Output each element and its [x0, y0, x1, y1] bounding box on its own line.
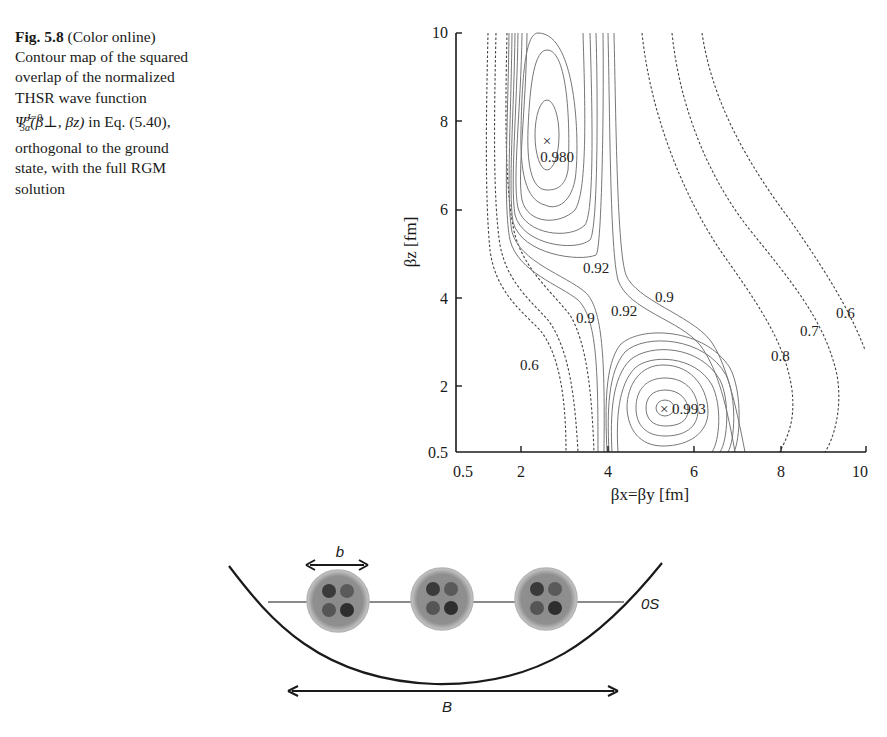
contour-label: 0.9 [655, 289, 674, 305]
y-tick-label: 8 [440, 113, 448, 130]
contour-label: 0.7 [800, 323, 819, 339]
y-tick-label: 0.5 [428, 444, 448, 461]
y-tick-labels: 10 8 6 4 2 0.5 [428, 24, 448, 461]
y-axis-title: βz [fm] [401, 217, 420, 268]
contour-label: 0.6 [520, 357, 539, 373]
B-arrow: B [288, 686, 618, 715]
y-tick-label: 4 [440, 290, 448, 307]
alpha-cluster [307, 570, 369, 632]
svg-text:×: × [543, 133, 551, 149]
contour-label: 0.9 [576, 310, 595, 326]
peak-label-upper: 0.980 [540, 149, 574, 165]
contour-label: 0.92 [583, 260, 609, 276]
y-tick-label: 10 [432, 24, 448, 41]
b-label: b [336, 543, 344, 560]
x-tick-label: 10 [852, 463, 868, 480]
peak-label-lower: 0.993 [672, 401, 706, 417]
x-tick-label: 8 [777, 463, 785, 480]
axes [456, 33, 866, 452]
b-arrow: b [306, 543, 368, 570]
y-tick-label: 6 [440, 201, 448, 218]
x-tick-label: 0.5 [453, 463, 473, 480]
dashed-contours-right [642, 33, 865, 452]
x-tick-label: 4 [604, 463, 612, 480]
x-tick-labels: 0.5 2 4 6 8 10 [453, 463, 868, 480]
contour-chart: × 0.980 × 0.993 0.92 0.92 0.9 0.9 0.6 0.… [401, 24, 868, 504]
dashed-contours-left [486, 33, 594, 452]
contour-label: 0.8 [771, 348, 790, 364]
figure-canvas: × 0.980 × 0.993 0.92 0.92 0.9 0.9 0.6 0.… [0, 0, 887, 737]
x-tick-label: 6 [690, 463, 698, 480]
B-label: B [442, 698, 452, 715]
x-axis-title: βx=βy [fm] [611, 485, 689, 504]
y-tick-label: 2 [440, 378, 448, 395]
contour-label: 0.6 [836, 305, 855, 321]
peak-marker-lower: × 0.993 [660, 401, 706, 417]
alpha-cluster [411, 568, 473, 630]
solid-contours-saddle [506, 33, 745, 452]
alpha-cluster [515, 568, 577, 630]
solid-contours-lower-peak [606, 333, 739, 452]
contour-label: 0.92 [611, 303, 637, 319]
peak-x-lower: × [660, 401, 668, 417]
schematic-diagram: 0S b [229, 543, 662, 715]
x-tick-label: 2 [517, 463, 525, 480]
solid-contours-upper-peak [511, 33, 603, 257]
0s-label: 0S [641, 595, 659, 612]
